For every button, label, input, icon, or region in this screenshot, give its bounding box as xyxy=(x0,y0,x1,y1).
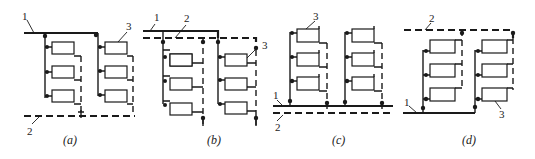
label-supply: 1 xyxy=(154,11,160,23)
radiator xyxy=(482,40,507,53)
return-pipe xyxy=(404,30,513,38)
label-supply: 1 xyxy=(273,89,279,101)
radiator xyxy=(430,64,455,77)
radiator xyxy=(297,29,319,42)
radiator xyxy=(105,66,127,78)
radiator xyxy=(482,88,507,101)
radiator xyxy=(105,90,127,102)
radiator xyxy=(430,40,455,53)
radiator xyxy=(352,53,374,66)
radiator xyxy=(297,77,319,90)
radiator xyxy=(52,66,74,78)
radiator xyxy=(52,42,74,54)
radiator xyxy=(225,54,247,66)
radiator xyxy=(297,53,319,66)
radiator xyxy=(52,90,74,102)
radiator xyxy=(225,102,247,114)
radiator xyxy=(430,88,455,101)
caption-c: (c) xyxy=(332,133,345,147)
radiator xyxy=(482,64,507,77)
label-supply: 1 xyxy=(22,10,28,22)
caption-d: (d) xyxy=(462,133,476,147)
panel-b: 1 2 3 (b) xyxy=(143,11,268,147)
radiator xyxy=(170,103,192,115)
panel-c: 1 2 3 (c) xyxy=(273,10,393,147)
radiator xyxy=(170,54,192,66)
panel-d: 1 2 3 (d) xyxy=(403,12,515,147)
label-radiator: 3 xyxy=(126,20,132,32)
label-return: 2 xyxy=(275,121,281,133)
radiator xyxy=(170,78,192,90)
label-radiator: 3 xyxy=(262,39,268,51)
panel-a: 1 2 3 (a) xyxy=(22,10,135,147)
caption-a: (a) xyxy=(63,133,77,147)
heating-system-diagram: 1 2 3 (a) 1 2 xyxy=(0,0,535,159)
label-return: 2 xyxy=(184,12,190,24)
label-return: 2 xyxy=(27,125,33,137)
radiator xyxy=(352,77,374,90)
radiator xyxy=(105,42,127,54)
label-supply: 1 xyxy=(404,96,410,108)
radiator-group xyxy=(43,34,81,116)
label-return: 2 xyxy=(429,12,435,24)
return-pipe xyxy=(143,38,256,50)
radiator xyxy=(225,78,247,90)
label-radiator: 3 xyxy=(313,10,319,22)
caption-b: (b) xyxy=(207,133,221,147)
radiator xyxy=(352,29,374,42)
label-radiator: 3 xyxy=(499,108,505,120)
radiator-group xyxy=(94,33,133,116)
